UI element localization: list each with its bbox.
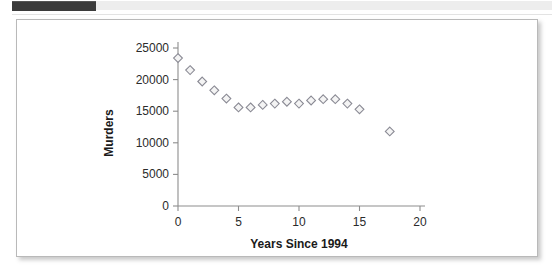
x-tick-label: 5: [235, 215, 242, 229]
data-point-marker: [210, 86, 219, 95]
x-tick-label: 20: [413, 215, 427, 229]
y-tick-label: 20000: [136, 73, 170, 87]
top-toolbar-rule: [96, 1, 552, 10]
data-point-marker: [258, 100, 267, 109]
data-point-marker: [331, 95, 340, 104]
top-hairline-divider: [12, 14, 552, 15]
data-point-marker: [246, 103, 255, 112]
data-point-marker: [295, 99, 304, 108]
data-point-marker: [198, 77, 207, 86]
top-dark-bar: [12, 1, 96, 11]
data-point-marker: [186, 66, 195, 75]
data-point-marker: [355, 105, 364, 114]
y-axis-tick-labels: 0500010000150002000025000: [136, 41, 170, 213]
y-tick-label: 0: [162, 199, 169, 213]
screenshot-root: 0500010000150002000025000 05101520 Murde…: [0, 0, 554, 275]
data-point-marker: [174, 54, 183, 63]
x-axis-title: Years Since 1994: [250, 237, 348, 251]
x-tick-label: 15: [353, 215, 367, 229]
data-point-markers: [174, 54, 395, 136]
data-point-marker: [343, 99, 352, 108]
data-point-marker: [385, 127, 394, 136]
data-point-marker: [307, 96, 316, 105]
data-point-marker: [270, 99, 279, 108]
x-axis-tick-marks: [178, 206, 420, 211]
y-tick-label: 5000: [142, 167, 169, 181]
data-point-marker: [222, 94, 231, 103]
x-tick-label: 0: [175, 215, 182, 229]
chart-figure-card: 0500010000150002000025000 05101520 Murde…: [16, 19, 538, 257]
y-tick-label: 25000: [136, 41, 170, 55]
x-axis-tick-labels: 05101520: [175, 215, 427, 229]
data-point-marker: [234, 103, 243, 112]
y-tick-label: 10000: [136, 136, 170, 150]
x-tick-label: 10: [292, 215, 306, 229]
y-axis-tick-marks: [173, 48, 178, 206]
data-point-marker: [319, 95, 328, 104]
scatter-plot: 0500010000150002000025000 05101520 Murde…: [17, 20, 537, 256]
data-point-marker: [283, 97, 292, 106]
y-tick-label: 15000: [136, 104, 170, 118]
y-axis-title: Murders: [102, 109, 116, 157]
